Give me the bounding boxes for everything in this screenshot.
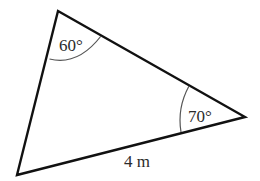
triangle-diagram: 60° 70° 4 m xyxy=(0,0,260,181)
angle-label-top: 60° xyxy=(59,36,83,55)
triangle-shape xyxy=(17,11,245,175)
side-label-bottom: 4 m xyxy=(124,152,150,171)
angle-label-right: 70° xyxy=(188,107,212,126)
